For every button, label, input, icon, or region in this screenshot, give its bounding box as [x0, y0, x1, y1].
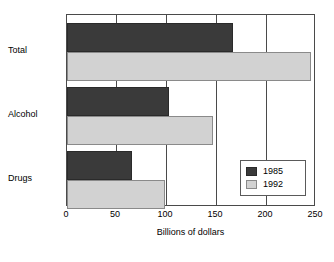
- legend-swatch-1985-icon: [246, 167, 257, 176]
- xtick-label-250: 250: [295, 209, 334, 220]
- chart-legend: 1985 1992: [240, 160, 306, 196]
- category-label-drugs: Drugs: [8, 173, 62, 183]
- bar-total-1985: [67, 23, 233, 52]
- legend-label-1985: 1985: [263, 166, 283, 177]
- bar-alcohol-1992: [67, 116, 213, 145]
- xtick-label-200: 200: [245, 209, 285, 220]
- bar-drugs-1985: [67, 151, 132, 180]
- legend-swatch-1992-icon: [246, 180, 257, 189]
- category-label-alcohol: Alcohol: [8, 109, 62, 119]
- xtick-label-50: 50: [95, 209, 135, 220]
- bar-alcohol-1985: [67, 87, 169, 116]
- bar-total-1992: [67, 52, 311, 81]
- xtick-label-0: 0: [46, 209, 86, 220]
- legend-item-1985: 1985: [246, 165, 300, 178]
- bar-chart: Total Alcohol Drugs 0 50 100 150 200 250…: [0, 0, 334, 262]
- legend-label-1992: 1992: [263, 179, 283, 190]
- xtick-label-100: 100: [145, 209, 185, 220]
- x-axis-title: Billions of dollars: [66, 227, 315, 238]
- bar-drugs-1992: [67, 180, 165, 209]
- xtick-label-150: 150: [195, 209, 235, 220]
- legend-item-1992: 1992: [246, 178, 300, 191]
- category-label-total: Total: [8, 45, 62, 55]
